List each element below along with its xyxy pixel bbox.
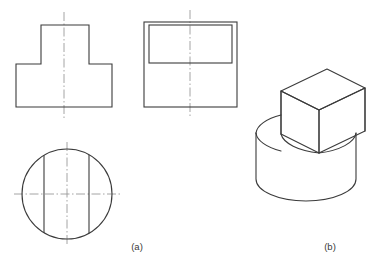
- caption-a-label: (a): [131, 241, 143, 252]
- drawing-canvas: (a) (b): [0, 0, 380, 268]
- figure-background: [0, 0, 380, 268]
- caption-b-label: (b): [324, 241, 336, 252]
- technical-drawing-figure: (a) (b): [0, 0, 380, 268]
